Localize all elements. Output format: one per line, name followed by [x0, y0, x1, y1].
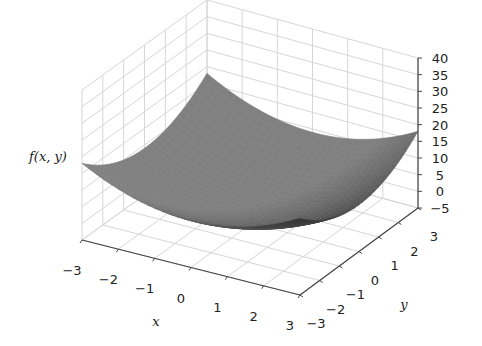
y-tick-label: −1 [346, 287, 365, 302]
y-tick-label: 3 [430, 229, 438, 244]
y-tick-label: −3 [306, 316, 325, 331]
z-tick-label: 0 [436, 184, 444, 199]
x-tick-label: 3 [286, 318, 294, 333]
z-tick-label: 10 [432, 151, 449, 166]
x-tick-label: 0 [177, 290, 185, 305]
x-tick-label: −1 [135, 281, 154, 296]
z-tick-label: 15 [432, 134, 449, 149]
y-tick-label: −2 [326, 301, 345, 316]
surface-plot [0, 0, 482, 346]
x-tick-label: 1 [213, 299, 221, 314]
z-tick-label: 35 [432, 67, 449, 82]
z-axis-label: f(x, y) [29, 149, 67, 164]
y-tick-label: 2 [410, 243, 418, 258]
y-tick-label: 1 [391, 258, 399, 273]
y-axis-label: y [400, 297, 407, 312]
x-axis-label: x [152, 314, 159, 329]
z-tick-label: 40 [432, 51, 449, 66]
x-tick-label: 2 [250, 308, 258, 323]
z-tick-label: 5 [436, 167, 444, 182]
z-tick-label: 20 [432, 117, 449, 132]
z-tick-label: −5 [430, 201, 449, 216]
y-tick-label: 0 [371, 272, 379, 287]
x-tick-label: −2 [99, 272, 118, 287]
z-tick-label: 25 [432, 101, 449, 116]
z-tick-label: 30 [432, 84, 449, 99]
x-tick-label: −3 [62, 263, 81, 278]
surface-mesh [82, 73, 418, 229]
